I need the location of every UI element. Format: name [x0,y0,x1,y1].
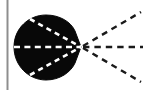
ray-convergence-diagram [0,0,143,90]
figure-panel [0,0,143,90]
